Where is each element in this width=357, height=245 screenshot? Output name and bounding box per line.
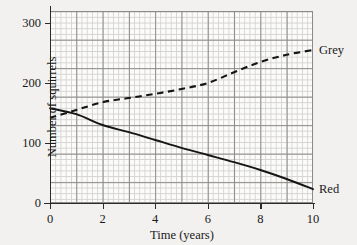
x-tick-10 bbox=[313, 204, 314, 209]
y-tick-label-200: 200 bbox=[22, 76, 41, 91]
y-tick-label-300: 300 bbox=[22, 16, 41, 31]
series-line-grey bbox=[50, 50, 313, 118]
x-tick-label-6: 6 bbox=[205, 212, 211, 227]
y-tick-300 bbox=[45, 23, 50, 24]
x-axis-title: Time (years) bbox=[150, 228, 214, 243]
y-tick-label-0: 0 bbox=[35, 196, 41, 211]
x-tick-label-2: 2 bbox=[99, 212, 105, 227]
y-tick-label-100: 100 bbox=[22, 136, 41, 151]
y-axis-title: Number of squirrels bbox=[45, 57, 60, 158]
x-tick-label-0: 0 bbox=[47, 212, 53, 227]
y-tick-0 bbox=[45, 203, 50, 204]
x-tick-label-8: 8 bbox=[257, 212, 263, 227]
series-label-red: Red bbox=[319, 182, 339, 197]
x-axis bbox=[44, 203, 315, 204]
series-label-grey: Grey bbox=[319, 43, 344, 58]
x-tick-label-4: 4 bbox=[152, 212, 158, 227]
x-tick-4 bbox=[155, 204, 156, 209]
squirrel-population-chart: 0246810 0100200300 Time (years) Number o… bbox=[0, 0, 357, 245]
x-tick-8 bbox=[260, 204, 261, 209]
x-tick-0 bbox=[50, 204, 51, 209]
x-tick-2 bbox=[103, 204, 104, 209]
series-line-red bbox=[50, 108, 313, 189]
x-tick-label-10: 10 bbox=[307, 212, 320, 227]
series-container bbox=[50, 11, 313, 203]
x-tick-6 bbox=[208, 204, 209, 209]
